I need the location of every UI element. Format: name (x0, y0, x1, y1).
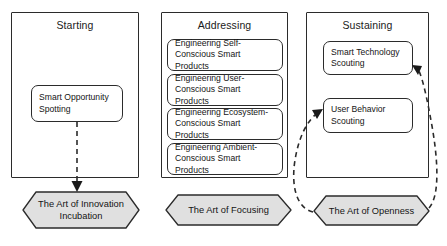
phase-title-starting: Starting (12, 19, 138, 31)
activity-label-smart-technology-scouting: Smart Technology Scouting (331, 47, 406, 70)
outcome-hexagon-art-of-openness[interactable]: The Art of Openness (313, 195, 430, 226)
outcome-hexagon-art-of-focusing[interactable]: The Art of Focusing (165, 194, 292, 226)
activity-box-engineering-user-conscious-smart-products[interactable]: Engineering User-Conscious Smart Product… (167, 74, 283, 106)
phase-title-addressing: Addressing (162, 19, 287, 31)
activity-box-engineering-ambient-conscious-smart-products[interactable]: Engineering Ambient-Conscious Smart Prod… (167, 143, 283, 175)
activity-box-engineering-ecosystem-conscious-smart-products[interactable]: Engineering Ecosystem-Conscious Smart Pr… (167, 108, 283, 140)
activity-label-smart-opportunity-spotting: Smart Opportunity Spotting (39, 92, 116, 115)
activity-box-smart-technology-scouting[interactable]: Smart Technology Scouting (323, 41, 413, 75)
activity-label-engineering-self-conscious-smart-products: Engineering Self-Conscious Smart Product… (175, 38, 276, 72)
activity-label-user-behavior-scouting: User Behavior Scouting (331, 104, 406, 127)
activity-box-user-behavior-scouting[interactable]: User Behavior Scouting (323, 98, 413, 133)
activity-label-engineering-ambient-conscious-smart-products: Engineering Ambient-Conscious Smart Prod… (175, 142, 276, 176)
activity-box-smart-opportunity-spotting[interactable]: Smart Opportunity Spotting (31, 85, 123, 122)
activity-box-engineering-self-conscious-smart-products[interactable]: Engineering Self-Conscious Smart Product… (167, 39, 283, 71)
phase-column-sustaining[interactable]: Sustaining (306, 12, 429, 178)
activity-label-engineering-user-conscious-smart-products: Engineering User-Conscious Smart Product… (175, 73, 276, 107)
outcome-hexagon-art-of-innovation-incubation[interactable]: The Art of Innovation Incubation (22, 191, 140, 229)
activity-label-engineering-ecosystem-conscious-smart-products: Engineering Ecosystem-Conscious Smart Pr… (175, 107, 276, 141)
phase-title-sustaining: Sustaining (307, 19, 428, 31)
process-flow-diagram: Starting Smart Opportunity Spotting The … (0, 0, 447, 246)
